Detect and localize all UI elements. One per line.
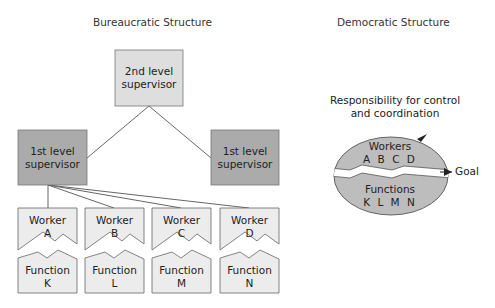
goal-label: Goal <box>455 165 479 178</box>
democratic-workers-label: WorkersA B C D <box>345 140 435 166</box>
function-n-label: FunctionN <box>220 264 279 290</box>
responsibility-label: Responsibility for controland coordinati… <box>320 94 470 120</box>
first-level-supervisor-right-label: 1st levelsupervisor <box>211 145 279 171</box>
function-m-label: FunctionM <box>152 264 211 290</box>
democratic-functions-label: FunctionsK L M N <box>345 183 435 209</box>
function-l-label: FunctionL <box>85 264 144 290</box>
worker-d-label: WorkerD <box>220 214 279 240</box>
worker-c-label: WorkerC <box>152 214 211 240</box>
second-level-supervisor-label: 2nd levelsupervisor <box>115 65 183 91</box>
worker-a-label: WorkerA <box>18 214 77 240</box>
first-level-supervisor-left-label: 1st levelsupervisor <box>18 145 87 171</box>
worker-b-label: WorkerB <box>85 214 144 240</box>
function-k-label: FunctionK <box>18 264 77 290</box>
